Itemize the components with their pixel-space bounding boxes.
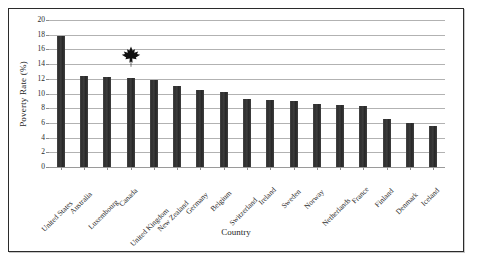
x-axis-tick-label-text: Finland <box>373 187 395 209</box>
x-axis-label-slot: Iceland <box>422 169 445 231</box>
x-axis-label-slot: Canada <box>119 169 142 231</box>
bar <box>103 77 111 167</box>
x-axis-tick-label-text: Belgium <box>209 189 233 213</box>
x-axis-title: Country <box>9 227 463 237</box>
x-axis-label-slot: Sweden <box>282 169 305 231</box>
bar-slot <box>212 20 235 167</box>
bar <box>80 76 88 167</box>
bar <box>359 106 367 167</box>
x-axis-tick-label-text: Iceland <box>420 187 441 208</box>
bar-slot <box>119 20 142 167</box>
bar <box>313 104 321 167</box>
y-axis-tick-label: 14 <box>38 60 46 68</box>
bar <box>196 90 204 167</box>
x-axis-tick-label-text: Australia <box>69 190 94 215</box>
bar <box>383 119 391 168</box>
bar <box>336 105 344 167</box>
bar-slot <box>282 20 305 167</box>
y-axis-tick-label: 10 <box>38 90 46 98</box>
bar <box>220 92 228 167</box>
y-axis-tick-mark <box>46 167 49 168</box>
x-axis-tick-label: Iceland <box>436 171 457 192</box>
y-axis-tick-label: 4 <box>41 134 45 142</box>
x-axis-tick-label-text: Sweden <box>280 188 302 210</box>
x-axis-label-slot: United States <box>49 169 72 231</box>
bar-slot <box>49 20 72 167</box>
x-axis-label-slot: Switzerland <box>235 169 258 231</box>
bar <box>173 86 181 167</box>
x-axis-label-slot: Denmark <box>398 169 421 231</box>
y-axis-tick-label: 12 <box>38 75 46 83</box>
x-axis-label-slot: Finland <box>375 169 398 231</box>
bar <box>243 99 251 167</box>
bar <box>127 78 135 167</box>
bar <box>150 80 158 167</box>
x-axis-label-slot: Germany <box>189 169 212 231</box>
bar-slot <box>375 20 398 167</box>
x-axis-labels: United StatesAustraliaLuxembourgCanadaUn… <box>49 169 445 231</box>
bar-slot <box>165 20 188 167</box>
plot-area: 02468101214161820 <box>49 20 445 167</box>
y-axis-tick-label: 18 <box>38 31 46 39</box>
bar-series <box>49 20 445 167</box>
y-axis-tick-label: 8 <box>41 104 45 112</box>
maple-leaf-icon <box>121 46 141 68</box>
x-axis-label-slot: France <box>352 169 375 231</box>
x-axis-label-slot: Luxembourg <box>96 169 119 231</box>
y-axis-tick-label: 0 <box>41 163 45 171</box>
chart-figure-frame: Poverty Rate (%) 02468101214161820 Unite… <box>8 8 464 252</box>
bar-slot <box>329 20 352 167</box>
bar-slot <box>352 20 375 167</box>
bar-slot <box>142 20 165 167</box>
x-axis-label-slot: Netherlands <box>329 169 352 231</box>
bar-slot <box>259 20 282 167</box>
bar-slot <box>96 20 119 167</box>
bar-slot <box>422 20 445 167</box>
bar <box>266 100 274 167</box>
bar-slot <box>235 20 258 167</box>
x-axis-tick-label-text: Ireland <box>257 186 277 206</box>
x-axis-label-slot: New Zealand <box>165 169 188 231</box>
x-axis-tick-label-text: Canada <box>117 187 138 208</box>
bar-slot <box>72 20 95 167</box>
y-axis-tick-label: 20 <box>38 16 46 24</box>
bar-slot <box>189 20 212 167</box>
x-axis-label-slot: Ireland <box>259 169 282 231</box>
x-axis-tick-label-text: France <box>351 185 371 205</box>
y-axis-tick-label: 2 <box>41 149 45 157</box>
bar <box>290 101 298 167</box>
y-axis-title-text: Poverty Rate (%) <box>18 61 28 127</box>
y-axis-tick-label: 16 <box>38 46 46 54</box>
bar-slot <box>305 20 328 167</box>
bar <box>57 36 65 167</box>
y-axis-tick-label: 6 <box>41 119 45 127</box>
bar-slot <box>398 20 421 167</box>
x-axis-tick-label-text: Germany <box>185 191 210 216</box>
bar <box>406 123 414 167</box>
x-axis-tick-label-text: Denmark <box>394 191 419 216</box>
y-axis-title: Poverty Rate (%) <box>15 9 31 179</box>
x-axis-tick-label-text: Norway <box>303 188 325 210</box>
bar <box>429 126 437 167</box>
x-axis-title-text: Country <box>221 227 251 237</box>
